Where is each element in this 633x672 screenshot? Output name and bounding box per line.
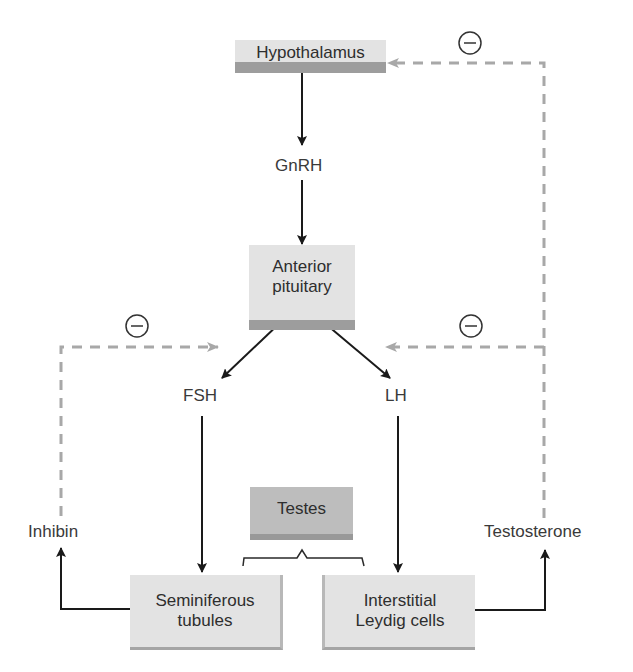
testosterone-label: Testosterone [484, 522, 581, 542]
connector-layer [0, 0, 633, 672]
inhibin-label: Inhibin [28, 522, 78, 542]
gnrh-label: GnRH [275, 156, 322, 176]
interstitial-label-line1: Interstitial [364, 591, 437, 611]
arrow-seminiferous-to-inhibin [61, 548, 130, 609]
testes-box-shadow [250, 534, 353, 540]
hypothalamus-label: Hypothalamus [256, 43, 365, 63]
testes-box: Testes [250, 487, 353, 540]
seminiferous-label-line2: tubules [178, 611, 233, 631]
testes-brace [243, 550, 364, 566]
anterior-pituitary-box: Anterior pituitary [249, 245, 355, 330]
hypothalamus-box-shadow [235, 62, 386, 73]
hormone-feedback-diagram: Hypothalamus GnRH Anterior pituitary FSH… [0, 0, 633, 672]
inhibition-symbol-testosterone [460, 315, 482, 337]
anterior-pituitary-label-line1: Anterior [272, 257, 332, 277]
anterior-pituitary-box-shadow [249, 320, 355, 330]
seminiferous-label-line1: Seminiferous [155, 591, 254, 611]
anterior-pituitary-label-line2: pituitary [272, 277, 332, 297]
arrow-interstitial-to-testosterone [475, 550, 545, 610]
lh-label: LH [385, 386, 407, 406]
seminiferous-tubules-box: Seminiferous tubules [130, 575, 283, 650]
fsh-label: FSH [183, 386, 217, 406]
interstitial-leydig-cells-box: Interstitial Leydig cells [322, 575, 475, 650]
inhibition-symbol-hypothalamus [459, 32, 481, 54]
testes-label: Testes [277, 499, 326, 519]
feedback-testosterone-to-hypothalamus [388, 63, 544, 518]
inhibition-symbol-inhibin [126, 315, 148, 337]
interstitial-label-line2: Leydig cells [356, 611, 445, 631]
hypothalamus-box: Hypothalamus [235, 40, 386, 73]
feedback-inhibin-to-pituitary [61, 347, 218, 516]
